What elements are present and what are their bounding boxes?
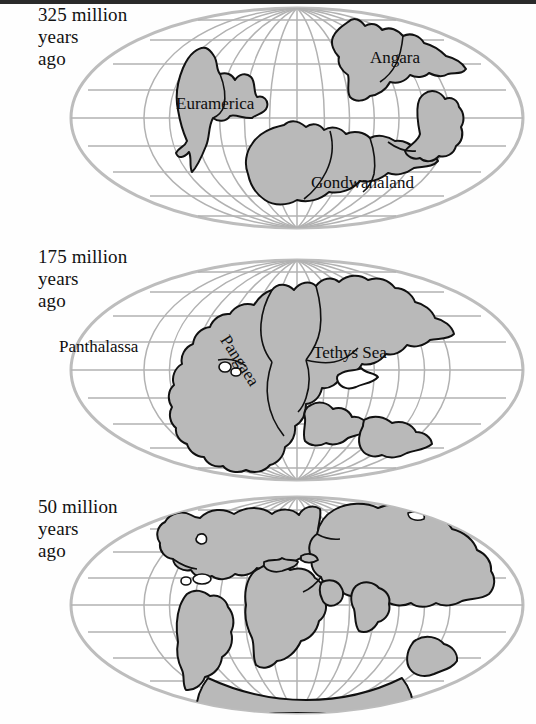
gutter-fragment-3: t <box>0 332 22 351</box>
figure-page: 325 million years ago <box>0 0 536 724</box>
globe-175ma: Panthalassa Pangaea Tethys Sea <box>58 242 536 492</box>
landmass-arabia <box>320 580 343 606</box>
gutter-fragment-2: e <box>0 153 22 172</box>
globe-50ma <box>58 492 536 724</box>
map-panel-50ma: 50 million years ago <box>0 492 536 724</box>
map-panel-325ma: 325 million years ago <box>0 0 536 242</box>
gutter-fragment-1: e <box>0 68 22 87</box>
map-panel-175ma: 175 million years ago <box>0 242 536 492</box>
globe-325ma: Euramerica Angara Gondwanaland <box>58 0 536 242</box>
